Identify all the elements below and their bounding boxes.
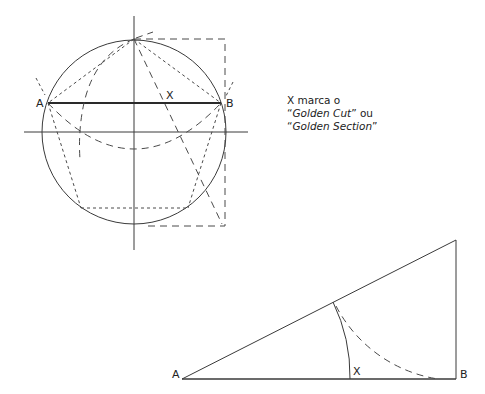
tick-near-apex [136, 32, 153, 38]
label-a-triangle: A [172, 368, 180, 381]
apex-to-a-line [48, 39, 134, 103]
tick-above-a [36, 78, 45, 95]
golden-section-term: Golden Section [292, 120, 372, 132]
tick-above-b [225, 82, 233, 98]
label-x-triangle: X [353, 365, 361, 378]
apex-to-b-line [134, 39, 221, 103]
label-b-circle: B [226, 97, 234, 110]
label-a-circle: A [36, 97, 44, 110]
caption-line-2-rest: ” ou [351, 107, 373, 119]
caption: X marca o “Golden Cut” ou “Golden Sectio… [287, 94, 378, 133]
solid-arc-to-x [333, 302, 350, 379]
dashed-arc-from-top [336, 306, 438, 379]
pentagon-right-side [188, 103, 221, 208]
label-x-circle: X [166, 89, 174, 102]
caption-line-3: “Golden Section” [287, 120, 378, 133]
caption-line-2: “Golden Cut” ou [287, 107, 378, 120]
label-b-triangle: B [460, 368, 468, 381]
caption-line-1: X marca o [287, 94, 378, 107]
quote-close: ” [372, 120, 377, 132]
triangle-construction: A B X [172, 240, 468, 381]
circle-construction: A B X [24, 16, 248, 250]
golden-cut-term: Golden Cut [292, 107, 351, 119]
triangle-hypotenuse [182, 240, 456, 379]
apex-left-arc [80, 39, 135, 160]
golden-section-diagram: A B X A B X [0, 0, 485, 394]
